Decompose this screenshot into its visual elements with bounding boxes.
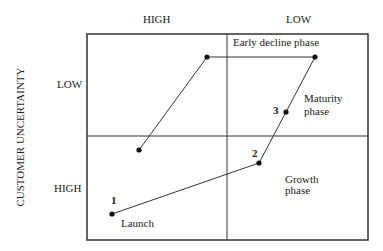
point-2 xyxy=(256,160,261,165)
growth-label-2: phase xyxy=(285,184,310,196)
lifecycle-diagram xyxy=(0,0,383,251)
point-decline-left-top xyxy=(204,54,209,59)
left-label-high: HIGH xyxy=(54,182,82,194)
left-label-low: LOW xyxy=(57,78,82,90)
launch-label: Launch xyxy=(121,217,154,229)
point-decline-end xyxy=(312,54,317,59)
marker-1: 1 xyxy=(111,194,117,206)
y-axis-title: CUSTOMER UNCERTAINTY xyxy=(14,67,26,206)
early-decline-label: Early decline phase xyxy=(233,36,319,48)
point-3 xyxy=(283,109,288,114)
marker-3: 3 xyxy=(273,104,279,116)
point-decline-left-bottom xyxy=(136,147,141,152)
top-label-low: LOW xyxy=(286,13,311,25)
top-label-high: HIGH xyxy=(143,13,171,25)
maturity-label-1: Maturity xyxy=(304,92,343,104)
maturity-label-2: phase xyxy=(304,105,329,117)
marker-2: 2 xyxy=(252,147,258,159)
point-launch xyxy=(109,211,114,216)
